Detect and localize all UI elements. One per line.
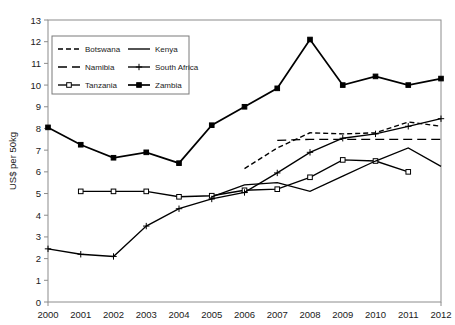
x-axis-tick-label: 2004 bbox=[168, 309, 189, 320]
legend-swatch-marker bbox=[67, 83, 72, 88]
y-axis-title: US$ per 50kg bbox=[7, 132, 18, 190]
data-point-marker bbox=[111, 189, 116, 194]
y-axis-tick-label: 2 bbox=[36, 253, 41, 264]
data-point-marker bbox=[308, 175, 313, 180]
y-axis-tick-label: 0 bbox=[36, 297, 41, 308]
y-axis-tick-label: 4 bbox=[36, 210, 41, 221]
x-axis-tick-label: 2002 bbox=[103, 309, 124, 320]
series-namibia bbox=[277, 139, 441, 140]
x-axis-tick-label: 2006 bbox=[234, 309, 255, 320]
x-axis-tick-label: 2005 bbox=[201, 309, 222, 320]
data-point-marker bbox=[78, 142, 83, 147]
y-axis-tick-label: 6 bbox=[36, 166, 41, 177]
data-point-marker bbox=[275, 187, 280, 192]
data-point-marker bbox=[340, 158, 345, 163]
data-point-marker bbox=[242, 104, 247, 109]
legend-label: Namibia bbox=[85, 63, 115, 72]
legend-label: South Africa bbox=[155, 63, 199, 72]
data-point-marker bbox=[176, 206, 182, 212]
data-point-marker bbox=[405, 123, 411, 129]
data-point-marker bbox=[438, 116, 444, 122]
data-point-marker bbox=[275, 86, 280, 91]
y-axis-tick-label: 12 bbox=[30, 36, 41, 47]
data-point-marker bbox=[177, 194, 182, 199]
data-point-marker bbox=[144, 150, 149, 155]
y-axis-tick-label: 8 bbox=[36, 123, 41, 134]
data-point-marker bbox=[78, 189, 83, 194]
y-axis-tick-label: 13 bbox=[30, 15, 41, 26]
legend-label: Tanzania bbox=[85, 81, 118, 90]
y-axis-tick-label: 5 bbox=[36, 188, 41, 199]
data-point-marker bbox=[307, 149, 313, 155]
data-point-marker bbox=[111, 155, 116, 160]
y-axis-tick-label: 1 bbox=[36, 275, 41, 286]
legend-swatch-marker bbox=[137, 83, 142, 88]
data-point-marker bbox=[78, 251, 84, 257]
y-axis-tick-label: 10 bbox=[30, 80, 41, 91]
line-chart: 0123456789101112132000200120022003200420… bbox=[0, 0, 455, 325]
legend-label: Botswana bbox=[85, 45, 121, 54]
data-point-marker bbox=[439, 76, 444, 81]
data-point-marker bbox=[340, 135, 346, 141]
x-axis-tick-label: 2010 bbox=[365, 309, 386, 320]
series-path bbox=[277, 139, 441, 140]
data-point-marker bbox=[209, 123, 214, 128]
y-axis-tick-label: 3 bbox=[36, 231, 41, 242]
x-axis-tick-label: 2009 bbox=[332, 309, 353, 320]
x-axis-tick-label: 2003 bbox=[136, 309, 157, 320]
data-point-marker bbox=[406, 170, 411, 175]
chart-legend: BotswanaKenyaNamibiaSouth AfricaTanzania… bbox=[52, 36, 199, 94]
x-axis-tick-label: 2000 bbox=[37, 309, 58, 320]
data-point-marker bbox=[46, 125, 51, 130]
x-axis-tick-label: 2011 bbox=[398, 309, 418, 320]
data-point-marker bbox=[373, 74, 378, 79]
legend-label: Kenya bbox=[155, 45, 178, 54]
data-point-marker bbox=[177, 161, 182, 166]
data-point-marker bbox=[45, 246, 51, 252]
x-axis-tick-label: 2008 bbox=[299, 309, 320, 320]
data-point-marker bbox=[372, 131, 378, 137]
data-point-marker bbox=[340, 83, 345, 88]
data-point-marker bbox=[308, 37, 313, 42]
x-axis-tick-label: 2007 bbox=[267, 309, 288, 320]
data-point-marker bbox=[406, 83, 411, 88]
x-axis-tick-label: 2001 bbox=[70, 309, 91, 320]
y-axis-tick-label: 11 bbox=[31, 58, 41, 69]
chart-canvas: 0123456789101112132000200120022003200420… bbox=[0, 0, 455, 325]
legend-label: Zambia bbox=[155, 81, 182, 90]
x-axis-tick-label: 2012 bbox=[430, 309, 451, 320]
y-axis-tick-label: 7 bbox=[36, 145, 41, 156]
data-point-marker bbox=[274, 170, 280, 176]
y-axis-tick-label: 9 bbox=[36, 101, 41, 112]
data-point-marker bbox=[144, 189, 149, 194]
